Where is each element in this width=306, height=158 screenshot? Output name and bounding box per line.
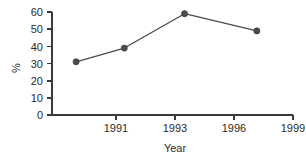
data-point [121, 45, 127, 51]
y-tick-label-50: 50 [31, 23, 43, 35]
x-axis-title: Year [164, 142, 187, 154]
y-tick-label-40: 40 [31, 41, 43, 53]
series-line-percent [76, 14, 257, 62]
y-tick-label-60: 60 [31, 6, 43, 18]
data-point [73, 59, 79, 65]
y-tick-label-20: 20 [31, 75, 43, 87]
x-tick-label-1999: 1999 [281, 122, 305, 134]
line-chart: 0 10 20 30 40 50 60 1991 1993 1996 1999 … [0, 0, 306, 158]
data-point [181, 11, 187, 17]
x-tick-label-1993: 1993 [163, 122, 187, 134]
y-tick-label-30: 30 [31, 58, 43, 70]
data-point [254, 28, 260, 34]
x-tick-label-1996: 1996 [222, 122, 246, 134]
series-markers-percent [73, 11, 260, 65]
x-tick-label-1991: 1991 [104, 122, 128, 134]
y-tick-label-10: 10 [31, 92, 43, 104]
y-tick-label-0: 0 [37, 109, 43, 121]
y-axis-title: % [10, 63, 22, 73]
chart-canvas: 0 10 20 30 40 50 60 1991 1993 1996 1999 … [0, 0, 306, 158]
